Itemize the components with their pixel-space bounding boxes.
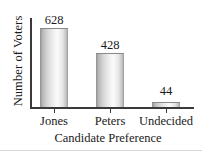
x-tick-jones [54,109,55,113]
y-axis-title: Number of Voters [11,9,25,113]
x-category-label-undecided: Undecided [139,114,193,129]
bar-value-jones: 628 [45,14,64,27]
bar-peters[interactable] [96,53,124,107]
x-category-label-peters: Peters [95,114,126,129]
bar-chart-figure: Number of Voters 628 428 44 Jones Peters… [0,0,202,151]
bar-slot-jones: 628 [40,18,68,107]
bar-slot-peters: 428 [96,18,124,107]
x-axis-title: Candidate Preference [0,131,202,146]
bar-value-peters: 428 [101,39,120,52]
x-tick-peters [110,109,111,113]
plot-area: 628 428 44 [32,18,194,107]
bar-undecided[interactable] [152,102,180,107]
x-tick-undecided [166,109,167,113]
bar-slot-undecided: 44 [152,18,180,107]
bar-value-undecided: 44 [160,85,173,98]
x-category-label-jones: Jones [40,114,68,129]
figure-bottom-rule [0,150,202,151]
bar-jones[interactable] [40,28,68,107]
